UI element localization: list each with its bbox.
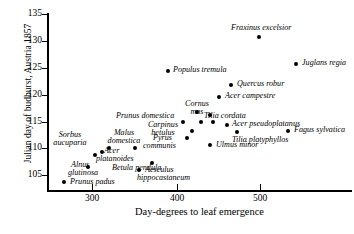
- y-tick-120: [42, 95, 48, 96]
- data-point-fraxinus-excelsior: [257, 35, 262, 40]
- point-label-sorbus-aucuparia-line2: aucuparia: [48, 139, 92, 147]
- x-axis-title: Day-degrees to leaf emergence: [47, 206, 352, 217]
- data-point-malus-domestica: [133, 146, 138, 151]
- point-label-populus-tremula: Populus tremula: [173, 66, 226, 74]
- point-label-acer-campestre: Acer campestre: [225, 92, 275, 100]
- data-point-ulmus-minor: [208, 143, 213, 148]
- y-tick-130: [42, 41, 48, 42]
- x-tick-500: [260, 184, 261, 190]
- point-label-fraxinus-excelsior: Fraxinus excelsior: [231, 24, 291, 32]
- data-point-carpinus-betulus: [190, 129, 195, 134]
- data-point-populus-tremula: [166, 69, 171, 74]
- data-point-fagus-sylvatica: [286, 129, 291, 134]
- x-axis-line: [47, 190, 352, 192]
- x-tick-label-300: 300: [72, 194, 112, 204]
- y-tick-110: [42, 148, 48, 149]
- y-tick-115: [42, 122, 48, 123]
- y-tick-135: [42, 14, 48, 15]
- x-tick-label-400: 400: [157, 194, 197, 204]
- y-tick-105: [42, 175, 48, 176]
- x-tick-400: [177, 184, 178, 190]
- point-label-ulmus-minor: Ulmus minor: [216, 141, 259, 149]
- point-label-acer-pseudoplatanus: Acer pseudoplatanus: [232, 120, 300, 128]
- point-label-aesculus-line2: hippocastaneum: [137, 174, 190, 182]
- x-tick-label-500: 500: [240, 194, 280, 204]
- data-point-unlabeled-b: [199, 120, 204, 125]
- y-axis-line: [47, 13, 49, 190]
- point-label-quercus-robur: Quercus robur: [237, 80, 284, 88]
- scatter-plot: 135 130 125 120 115 110 105 300 400 500 …: [0, 0, 354, 234]
- y-tick-125: [42, 68, 48, 69]
- point-label-juglans-regia: Juglans regia: [302, 59, 346, 67]
- data-point-quercus-robur: [229, 83, 234, 88]
- data-point-acer-campestre: [217, 95, 222, 100]
- point-label-fagus-sylvatica: Fagus sylvatica: [294, 126, 345, 134]
- point-label-prunus-padus: Prunus padus: [70, 178, 115, 186]
- data-point-juglans-regia: [294, 62, 299, 67]
- y-axis-title: Julian day of budburst, Austria 1857: [22, 4, 33, 184]
- data-point-prunus-padus: [62, 180, 67, 185]
- data-point-acer-pseudoplatanus: [225, 123, 230, 128]
- point-label-pyrus-communis-line2: communis: [143, 142, 176, 150]
- data-point-tilia-platyphyllos: [235, 130, 240, 135]
- point-label-malus-domestica-line2: domestica: [104, 137, 144, 145]
